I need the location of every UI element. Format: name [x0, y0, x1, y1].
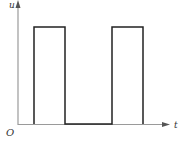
square-wave-diagram: u t O	[0, 0, 184, 145]
origin-label: O	[6, 127, 14, 138]
x-axis-arrow-icon	[162, 122, 170, 127]
square-wave	[34, 27, 143, 124]
x-axis-label: t	[174, 120, 178, 130]
y-axis-label: u	[9, 0, 15, 10]
y-axis-arrow-icon	[16, 0, 21, 8]
